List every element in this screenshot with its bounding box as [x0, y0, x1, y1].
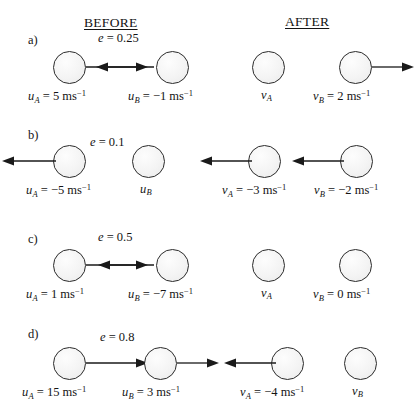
- velocity-label-b-before-A: uA = −5 ms−1: [26, 182, 91, 199]
- velocity-exponent: −1: [77, 88, 86, 98]
- velocity-value: = −2 ms: [325, 183, 369, 197]
- velocity-subscript: B: [146, 187, 151, 197]
- restitution-value: = 0.1: [96, 135, 125, 149]
- ball-b-after-B: [340, 145, 373, 178]
- velocity-value: = −7 ms: [140, 287, 184, 301]
- velocity-label-c-before-A: uA = 1 ms−1: [26, 286, 84, 303]
- restitution-value: = 0.25: [104, 31, 139, 45]
- restitution-value: = 0.8: [106, 330, 135, 344]
- velocity-exponent: −1: [361, 286, 370, 296]
- problem-row-b: b) e = 0.1 uA = −5 ms−1 uB vA = −3 ms−1 …: [0, 105, 416, 210]
- arrow-c-before-A-right: [86, 260, 148, 270]
- arrow-a-before-A-right: [86, 62, 148, 72]
- arrow-d-after-A-left: [224, 358, 276, 368]
- velocity-symbol: v: [261, 286, 267, 300]
- problem-row-c: c) e = 0.5 uA = 1 ms−1 uB = −7 ms−1 vA v…: [0, 210, 416, 310]
- velocity-label-d-after-B: vB: [352, 384, 363, 399]
- restitution-label-b: e = 0.1: [90, 135, 125, 150]
- arrow-a-before-B-left: [96, 62, 154, 72]
- arrow-b-after-A-left: [200, 156, 252, 166]
- velocity-label-c-after-B: vB = 0 ms−1: [313, 286, 370, 303]
- velocity-symbol: v: [314, 183, 320, 197]
- velocity-exponent: −1: [361, 88, 370, 98]
- arrow-d-before-A-right: [86, 358, 148, 368]
- arrow-b-before-A-left: [2, 156, 56, 166]
- velocity-symbol: v: [352, 384, 358, 398]
- ball-c-after-A: [252, 249, 285, 282]
- ball-c-before-A: [53, 249, 86, 282]
- ball-a-after-B: [339, 51, 372, 84]
- velocity-label-d-after-A: vA = −4 ms−1: [240, 384, 304, 401]
- velocity-exponent: −1: [171, 384, 180, 394]
- velocity-value: = −3 ms: [233, 183, 277, 197]
- row-label-d: d): [28, 327, 38, 342]
- velocity-exponent: −1: [184, 286, 193, 296]
- velocity-exponent: −1: [184, 88, 193, 98]
- velocity-symbol: v: [240, 385, 246, 399]
- velocity-label-c-before-B: uB = −7 ms−1: [128, 286, 193, 303]
- ball-a-before-A: [53, 51, 86, 84]
- velocity-exponent: −1: [77, 384, 86, 394]
- velocity-exponent: −1: [82, 182, 91, 192]
- restitution-label-d: e = 0.8: [100, 330, 135, 345]
- arrow-c-before-B-left: [98, 260, 154, 270]
- velocity-value: = 3 ms: [134, 385, 171, 399]
- ball-b-before-B: [132, 145, 165, 178]
- velocity-subscript: A: [267, 93, 272, 103]
- velocity-label-b-before-B: uB: [140, 182, 152, 197]
- row-label-c: c): [28, 232, 38, 247]
- velocity-subscript: A: [267, 291, 272, 301]
- velocity-symbol: v: [313, 89, 319, 103]
- velocity-subscript: B: [358, 389, 363, 399]
- velocity-value: = −5 ms: [38, 183, 82, 197]
- velocity-exponent: −1: [369, 182, 378, 192]
- ball-d-after-B: [344, 347, 377, 380]
- velocity-value: = 0 ms: [324, 287, 361, 301]
- velocity-exponent: −1: [277, 182, 286, 192]
- velocity-value: = 2 ms: [324, 89, 361, 103]
- velocity-label-c-after-A: vA: [261, 286, 272, 301]
- velocity-value: = 15 ms: [34, 385, 78, 399]
- velocity-label-b-after-B: vB = −2 ms−1: [314, 182, 378, 199]
- ball-b-after-A: [248, 145, 281, 178]
- collision-diagram: BEFORE AFTER a) e = 0.25 uA = 5 ms−1 uB …: [0, 0, 416, 404]
- restitution-value: = 0.5: [104, 230, 133, 244]
- velocity-value: = 5 ms: [40, 89, 77, 103]
- ball-d-before-A: [53, 347, 86, 380]
- velocity-exponent: −1: [295, 384, 304, 394]
- velocity-symbol: v: [313, 287, 319, 301]
- ball-c-after-B: [339, 249, 372, 282]
- ball-a-after-A: [252, 51, 285, 84]
- velocity-value: = −4 ms: [251, 385, 295, 399]
- ball-b-before-A: [53, 145, 86, 178]
- ball-a-before-B: [156, 51, 189, 84]
- ball-d-after-A: [271, 347, 304, 380]
- velocity-label-a-before-A: uA = 5 ms−1: [28, 88, 86, 105]
- velocity-symbol: v: [222, 183, 228, 197]
- velocity-label-a-before-B: uB = −1 ms−1: [128, 88, 193, 105]
- arrow-d-before-B-right: [177, 358, 219, 368]
- velocity-label-d-before-B: uB = 3 ms−1: [122, 384, 180, 401]
- velocity-symbol: v: [261, 88, 267, 102]
- problem-row-d: d) e = 0.8 uA = 15 ms−1 uB = 3 ms−1 vA =…: [0, 305, 416, 404]
- velocity-value: = −1 ms: [140, 89, 184, 103]
- velocity-exponent: −1: [75, 286, 84, 296]
- row-label-a: a): [28, 33, 38, 48]
- velocity-label-a-after-B: vB = 2 ms−1: [313, 88, 370, 105]
- velocity-value: = 1 ms: [38, 287, 75, 301]
- arrow-a-after-B-right: [372, 62, 414, 72]
- velocity-label-b-after-A: vA = −3 ms−1: [222, 182, 286, 199]
- ball-d-before-B: [144, 347, 177, 380]
- restitution-label-a: e = 0.25: [98, 31, 139, 46]
- velocity-label-a-after-A: vA: [261, 88, 272, 103]
- velocity-label-d-before-A: uA = 15 ms−1: [22, 384, 86, 401]
- arrow-b-after-B-left: [292, 156, 344, 166]
- restitution-label-c: e = 0.5: [98, 230, 133, 245]
- row-label-b: b): [28, 128, 38, 143]
- ball-c-before-B: [156, 249, 189, 282]
- problem-row-a: a) e = 0.25 uA = 5 ms−1 uB = −1 ms−1 vA …: [0, 0, 416, 110]
